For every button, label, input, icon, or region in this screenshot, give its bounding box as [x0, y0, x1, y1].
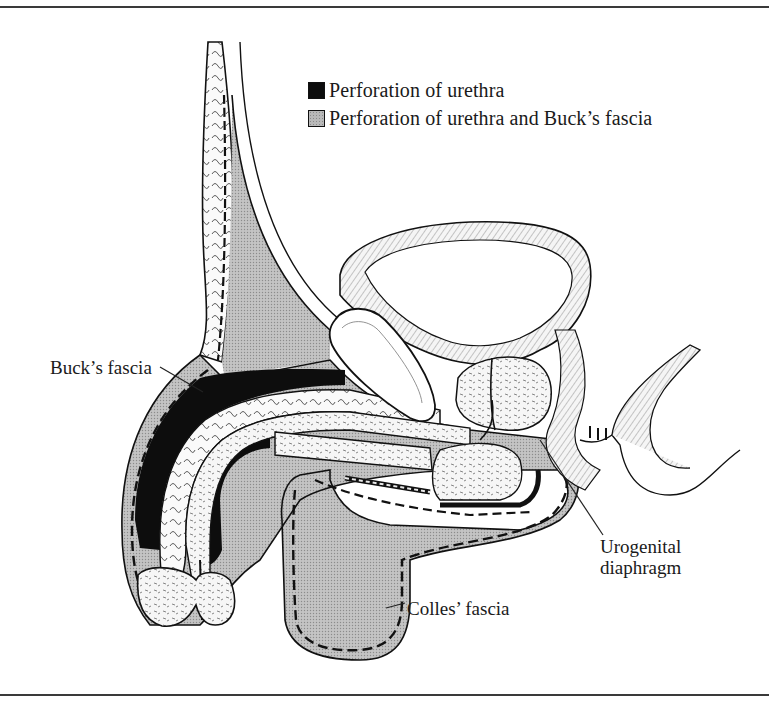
legend-label: Perforation of urethra: [329, 79, 504, 102]
legend-label: Perforation of urethra and Buck’s fascia: [329, 107, 652, 130]
label-urogenital-diaphragm-line2: diaphragm: [600, 557, 681, 578]
anatomy-illustration: [0, 0, 769, 706]
legend-item-urethra-perforation: Perforation of urethra: [308, 79, 504, 102]
stippled-gray-swatch-icon: [308, 110, 325, 127]
black-swatch-icon: [308, 82, 325, 99]
glans: [138, 568, 235, 627]
label-colles-fascia: Colles’ fascia: [407, 598, 510, 619]
rectum: [546, 330, 740, 495]
label-urogenital-diaphragm-line1: Urogenital: [600, 536, 681, 557]
label-bucks-fascia: Buck’s fascia: [50, 357, 152, 378]
legend-item-urethra-and-bucks-perforation: Perforation of urethra and Buck’s fascia: [308, 107, 652, 130]
